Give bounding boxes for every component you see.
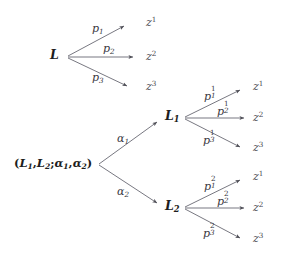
edge-label-p1-1: p11 [204,89,218,102]
edge-label-p1-2: p21 [204,179,218,192]
node-L2: L2 [165,200,180,214]
z1-superscript: 1 [152,15,157,24]
edge-label-p3-2: p23 [203,226,217,239]
p1-subscript: 1 [99,27,104,36]
p2-1-scripts: 12 [224,104,231,115]
edge-label-p2: p2 [103,43,115,55]
edge-label-p2-1: p12 [217,104,231,117]
lottery-tree-diagram: L p1 p2 p3 z1 z2 z3 (L1,L2;α1,α2) α1 α2 … [0,0,285,258]
alpha1-subscript: 1 [124,137,129,146]
L2-subscript: 2 [174,204,180,214]
p3-subscript: 3 [99,76,104,85]
p3-2-scripts: 23 [210,226,217,237]
outcome-z3-L1: z3 [253,141,263,153]
compound-close-paren: ) [87,156,92,170]
alpha2-subscript: 2 [124,190,129,199]
node-L: L [50,49,59,62]
p2-2-scripts: 22 [224,194,231,205]
node-L1: L1 [165,110,180,124]
z3-L1-superscript: 3 [259,140,264,149]
edge-label-p3-1: p13 [203,133,217,146]
outcome-z2-simple: z2 [146,50,156,62]
z2-L1-superscript: 2 [259,110,264,119]
p1-1-scripts: 11 [211,89,218,100]
edge-label-alpha1: α1 [117,133,129,145]
outcome-z1-L1: z1 [253,80,263,92]
outcome-z2-L2: z2 [253,201,263,213]
L1-subscript: 1 [174,114,180,124]
p1-2-scripts: 21 [211,179,218,190]
z1-L1-superscript: 1 [259,79,264,88]
edge-label-alpha2: α2 [117,186,129,198]
edge-label-p3: p3 [92,72,104,84]
outcome-z3-L2: z3 [253,232,263,244]
tree-edges [0,0,285,258]
node-compound-lottery: (L1,L2;α1,α2) [14,158,92,171]
outcome-z1-simple: z1 [146,16,156,28]
z1-L2-superscript: 1 [259,169,264,178]
z3-superscript: 3 [152,79,157,88]
z3-L2-superscript: 3 [259,231,264,240]
outcome-z1-L2: z1 [253,170,263,182]
p2-subscript: 2 [110,47,115,56]
outcome-z2-L1: z2 [253,111,263,123]
edge-label-p2-2: p22 [217,194,231,207]
z2-superscript: 2 [152,49,157,58]
z2-L2-superscript: 2 [259,200,264,209]
p3-1-scripts: 13 [210,133,217,144]
edge-label-p1: p1 [92,23,104,35]
outcome-z3-simple: z3 [146,80,156,92]
